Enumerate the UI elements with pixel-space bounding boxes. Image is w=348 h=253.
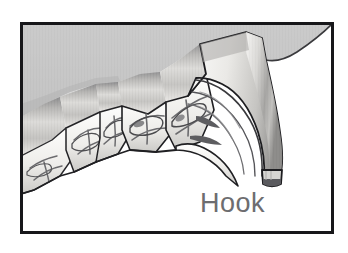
hook-tip-wear-surface <box>263 179 281 186</box>
illustration-canvas: Hook <box>0 0 348 253</box>
illustration-content <box>21 23 333 233</box>
figure-root: Hook <box>0 0 348 253</box>
hook-label: Hook <box>200 188 265 218</box>
